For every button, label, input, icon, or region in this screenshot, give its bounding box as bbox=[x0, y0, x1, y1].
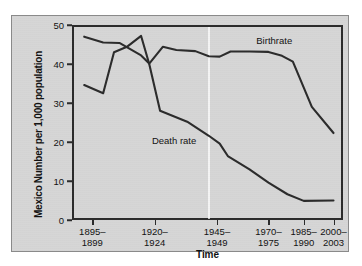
x-tick-label: 1920–1924 bbox=[128, 227, 182, 248]
figure-panel: Mexico Number per 1,000 population 01020… bbox=[11, 15, 349, 252]
x-tick-mark bbox=[268, 220, 270, 225]
x-tick-label-line: 1945– bbox=[190, 227, 244, 238]
x-tick-label-line: 1895– bbox=[65, 227, 119, 238]
x-tick-label-line: 1899 bbox=[65, 238, 119, 249]
y-tick-label: 10 bbox=[42, 176, 64, 187]
series-label-birthrate: Birthrate bbox=[256, 35, 292, 46]
x-tick-mark bbox=[92, 220, 94, 225]
series-label-death-rate: Death rate bbox=[152, 135, 196, 146]
y-axis-title-line-2: Number per 1,000 population bbox=[33, 51, 44, 183]
y-tick-label: 0 bbox=[42, 215, 64, 226]
series-line-death-rate bbox=[84, 36, 333, 201]
y-tick-label: 20 bbox=[42, 137, 64, 148]
x-tick-label-line: 2000– bbox=[307, 227, 361, 238]
x-tick-label: 1895–1899 bbox=[65, 227, 119, 248]
x-tick-mark bbox=[334, 220, 336, 225]
screenshot-page: Mexico Number per 1,000 population 01020… bbox=[0, 0, 362, 266]
y-tick-label: 30 bbox=[42, 98, 64, 109]
x-tick-mark bbox=[304, 220, 306, 225]
y-tick-label: 50 bbox=[42, 20, 64, 31]
series-line-birthrate bbox=[84, 37, 333, 133]
x-tick-label-line: 1920– bbox=[128, 227, 182, 238]
x-tick-label-line: 2003 bbox=[307, 238, 361, 249]
y-axis-title-line-1: Mexico bbox=[33, 185, 44, 218]
y-tick-label: 40 bbox=[42, 59, 64, 70]
x-tick-label: 1945–1949 bbox=[190, 227, 244, 248]
x-tick-mark bbox=[217, 220, 219, 225]
x-tick-label-line: 1949 bbox=[190, 238, 244, 249]
x-axis-title: Time bbox=[72, 249, 343, 260]
x-tick-label-line: 1924 bbox=[128, 238, 182, 249]
x-tick-mark bbox=[155, 220, 157, 225]
x-tick-label: 2000–2003 bbox=[307, 227, 361, 248]
plot-area bbox=[72, 25, 343, 220]
